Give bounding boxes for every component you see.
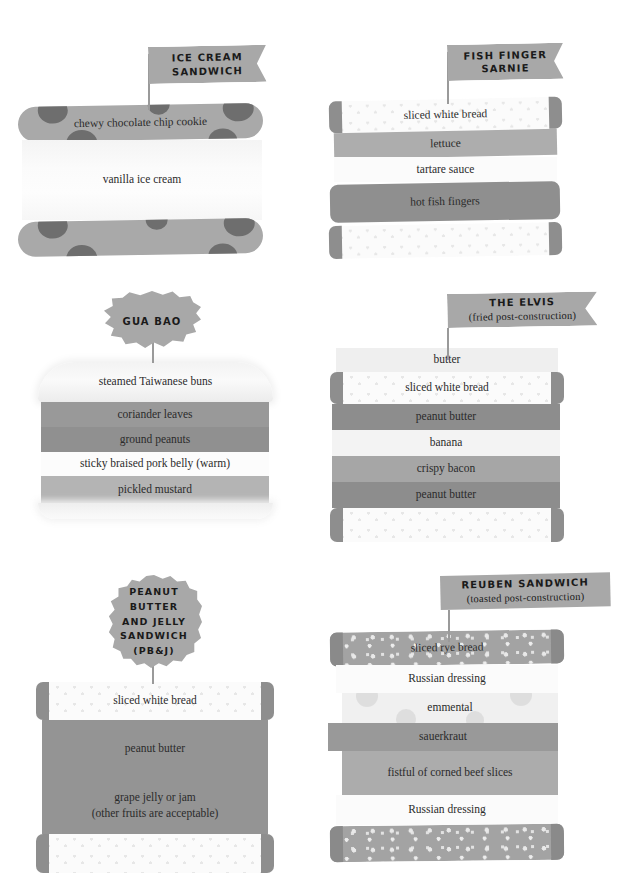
bread-crust-right xyxy=(549,222,563,255)
layer-label: Russian dressing xyxy=(408,671,486,687)
chocolate-chip xyxy=(38,218,68,239)
layer-steamed-taiwanese-buns: steamed Taiwanese buns xyxy=(38,362,273,402)
layer-russian-dressing-bottom: Russian dressing xyxy=(336,795,558,825)
chocolate-chip xyxy=(208,243,237,257)
bread-crust-right xyxy=(261,834,274,873)
label-line-2: SANDWICH xyxy=(172,64,243,79)
chocolate-chip xyxy=(148,103,170,115)
layer-hot-fish-fingers: hot fish fingers xyxy=(330,181,561,223)
bread-crust-right xyxy=(551,372,564,404)
label-subtitle: (fried post-construction) xyxy=(469,308,577,324)
sandwich-the-elvis: THE ELVIS (fried post-construction) butt… xyxy=(318,280,637,560)
bread-crust-left xyxy=(330,826,343,862)
label-reuben-sandwich: REUBEN SANDWICH (toasted post-constructi… xyxy=(440,572,611,610)
layer-label: vanilla ice cream xyxy=(103,172,182,188)
layer-label: steamed Taiwanese buns xyxy=(99,374,212,390)
layer-tartare-sauce: tartare sauce xyxy=(334,157,557,182)
chocolate-chip xyxy=(146,218,168,230)
bread-crust-right xyxy=(551,508,564,542)
layer-label: sliced white bread xyxy=(113,693,197,709)
bread-crust-left xyxy=(330,372,343,404)
chocolate-chip xyxy=(224,218,255,237)
layer-label: banana xyxy=(430,435,463,451)
label-line-2: BUTTER xyxy=(130,600,179,615)
layer-peanut-butter-bottom: peanut butter xyxy=(332,482,560,508)
layer-sticky-braised-pork-belly: sticky braised pork belly (warm) xyxy=(41,452,269,476)
layer-label: crispy bacon xyxy=(417,461,475,477)
layer-bottom-sliced-white-bread xyxy=(329,222,563,259)
sandwich-ice-cream-sandwich: ICE CREAM SANDWICH chewy chocolate chip … xyxy=(0,0,318,280)
layer-ground-peanuts: ground peanuts xyxy=(41,427,269,452)
chocolate-chip xyxy=(223,103,254,122)
poster-canvas: ICE CREAM SANDWICH chewy chocolate chip … xyxy=(0,0,637,887)
layer-label: sliced white bread xyxy=(404,106,488,123)
chocolate-chip xyxy=(66,245,97,257)
label-subtitle: (toasted post-construction) xyxy=(467,589,585,606)
layer-sliced-white-bread: sliced white bread xyxy=(330,372,564,404)
layer-label: peanut butter xyxy=(125,741,185,757)
label-fish-finger-sarnie: FISH FINGER SARNIE xyxy=(447,43,564,81)
label-line-1: GUA BAO xyxy=(123,314,182,330)
layer-crispy-bacon: crispy bacon xyxy=(332,456,560,482)
label-line-1: THE ELVIS xyxy=(489,295,555,310)
layer-label: pickled mustard xyxy=(118,482,192,498)
bread-crust-left xyxy=(330,508,343,542)
bread-crust-left xyxy=(330,632,343,666)
layer-caption: (other fruits are acceptable) xyxy=(92,806,219,822)
label-line-3: AND JELLY xyxy=(122,615,186,630)
chocolate-chip xyxy=(38,103,68,124)
label-line-1: ICE CREAM xyxy=(172,50,243,65)
layer-bottom-sliced-rye-bread xyxy=(330,824,564,862)
layer-label: sliced rye bread xyxy=(410,640,483,657)
layer-sauerkraut: sauerkraut xyxy=(328,723,558,751)
layer-sliced-rye-bread: sliced rye bread xyxy=(330,629,564,666)
layer-banana: banana xyxy=(332,430,560,456)
layer-russian-dressing-top: Russian dressing xyxy=(336,665,558,693)
layer-label: chewy chocolate chip cookie xyxy=(74,114,207,132)
layer-sliced-white-bread: sliced white bread xyxy=(329,97,563,134)
sandwich-reuben-sandwich: REUBEN SANDWICH (toasted post-constructi… xyxy=(318,560,637,887)
cheese-hole xyxy=(356,693,378,707)
layer-chewy-chocolate-chip-cookie: chewy chocolate chip cookie xyxy=(18,103,264,142)
layer-label: sticky braised pork belly (warm) xyxy=(80,456,230,472)
layer-bottom-sliced-white-bread xyxy=(330,508,564,542)
layer-label: sliced white bread xyxy=(405,380,489,396)
sandwich-peanut-butter-and-jelly-sandwich: PEANUT BUTTER AND JELLY SANDWICH (PB&J) … xyxy=(0,560,318,887)
label-line-1: FISH FINGER xyxy=(463,48,547,63)
flagpole-reuben-sandwich xyxy=(448,610,450,642)
layer-label: peanut butter xyxy=(416,487,476,503)
bread-crust-left xyxy=(329,226,343,259)
layer-label: sauerkraut xyxy=(419,729,467,745)
flagpole-the-elvis xyxy=(447,328,449,360)
label-peanut-butter-and-jelly-sandwich: PEANUT BUTTER AND JELLY SANDWICH (PB&J) xyxy=(106,575,202,669)
layer-pickled-mustard: pickled mustard xyxy=(41,476,269,503)
layer-fistful-of-corned-beef-slices: fistful of corned beef slices xyxy=(342,751,558,795)
label-line-5: (PB&J) xyxy=(133,644,174,659)
layer-bottom-cookie xyxy=(18,218,264,257)
layer-label: emmental xyxy=(427,700,472,716)
bread-crust-right xyxy=(261,682,274,720)
bread-crust-left xyxy=(36,834,49,873)
layer-grape-jelly-or-jam: grape jelly or jam (other fruits are acc… xyxy=(42,778,268,834)
sandwich-gua-bao: GUA BAO steamed Taiwanese buns coriander… xyxy=(0,280,318,560)
bread-crust-left xyxy=(329,101,343,133)
label-line-2: SARNIE xyxy=(481,61,529,75)
layer-label: hot fish fingers xyxy=(410,194,480,211)
layer-lettuce: lettuce xyxy=(334,129,557,160)
cheese-hole xyxy=(510,693,532,706)
layer-bottom-sliced-white-bread xyxy=(36,834,274,873)
label-line-1: PEANUT xyxy=(129,585,179,600)
bread-crust-right xyxy=(551,824,564,860)
layer-sliced-white-bread: sliced white bread xyxy=(36,682,274,720)
sandwich-fish-finger-sarnie: FISH FINGER SARNIE sliced white bread le… xyxy=(318,0,637,280)
label-line-4: SANDWICH xyxy=(120,629,188,644)
bread-crust-right xyxy=(549,97,563,129)
layer-label: lettuce xyxy=(430,136,461,152)
layer-label: Russian dressing xyxy=(408,802,486,818)
label-the-elvis: THE ELVIS (fried post-construction) xyxy=(447,291,598,328)
layer-coriander-leaves: coriander leaves xyxy=(41,402,269,427)
layer-emmental: emmental xyxy=(342,693,558,723)
layer-label: coriander leaves xyxy=(117,407,192,423)
layer-label: ground peanuts xyxy=(120,432,191,448)
label-ice-cream-sandwich: ICE CREAM SANDWICH xyxy=(148,45,267,84)
